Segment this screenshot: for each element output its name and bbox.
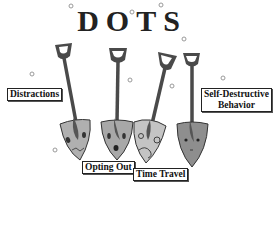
label-time-travel: Time Travel [133,168,188,181]
shovel-distractions-icon [55,43,90,160]
shovel-time-travel-icon [134,52,177,163]
shovel-opting-out-icon [101,48,133,160]
label-self-destructive-line2: Behavior [204,100,269,111]
label-self-destructive-behavior: Self-Destructive Behavior [201,88,272,112]
label-distractions: Distractions [7,88,62,101]
label-self-destructive-line1: Self-Destructive [204,89,269,100]
label-opting-out: Opting Out [82,161,135,174]
